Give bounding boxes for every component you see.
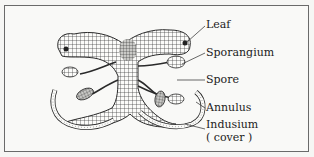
label-spore: Spore xyxy=(206,74,239,86)
vascular-bundle xyxy=(119,39,137,61)
fern-cross-section-illustration xyxy=(0,0,314,157)
label-indusium-note: ( cover ) xyxy=(206,132,252,144)
label-annulus: Annulus xyxy=(206,102,251,114)
label-sporangium: Sporangium xyxy=(206,47,274,59)
leaf-tissue xyxy=(58,30,191,127)
label-leaf: Leaf xyxy=(206,19,230,31)
label-indusium: Indusium xyxy=(206,119,258,131)
